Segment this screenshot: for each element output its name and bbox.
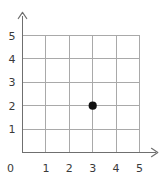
coordinate-grid-figure: 01234512345: [0, 0, 164, 179]
x-tick-label-1: 1: [42, 162, 49, 175]
y-tick-label-4: 4: [9, 53, 16, 66]
y-tick-label-3: 3: [9, 76, 16, 89]
y-tick-label-1: 1: [9, 123, 16, 136]
y-tick-label-2: 2: [9, 100, 16, 113]
x-tick-label-2: 2: [66, 162, 73, 175]
x-tick-label-5: 5: [136, 162, 143, 175]
grid-lines: [23, 36, 140, 153]
x-tick-label-3: 3: [89, 162, 96, 175]
y-axis-tick-labels: 12345: [9, 30, 16, 137]
coordinate-plane-svg: 01234512345: [0, 0, 164, 179]
axes: [18, 12, 158, 156]
x-tick-label-0: 0: [7, 162, 14, 175]
y-tick-label-5: 5: [9, 30, 16, 43]
x-tick-label-4: 4: [113, 162, 120, 175]
data-points: [89, 102, 97, 110]
x-axis-tick-labels: 012345: [7, 162, 143, 175]
data-point-3-2: [89, 102, 97, 110]
